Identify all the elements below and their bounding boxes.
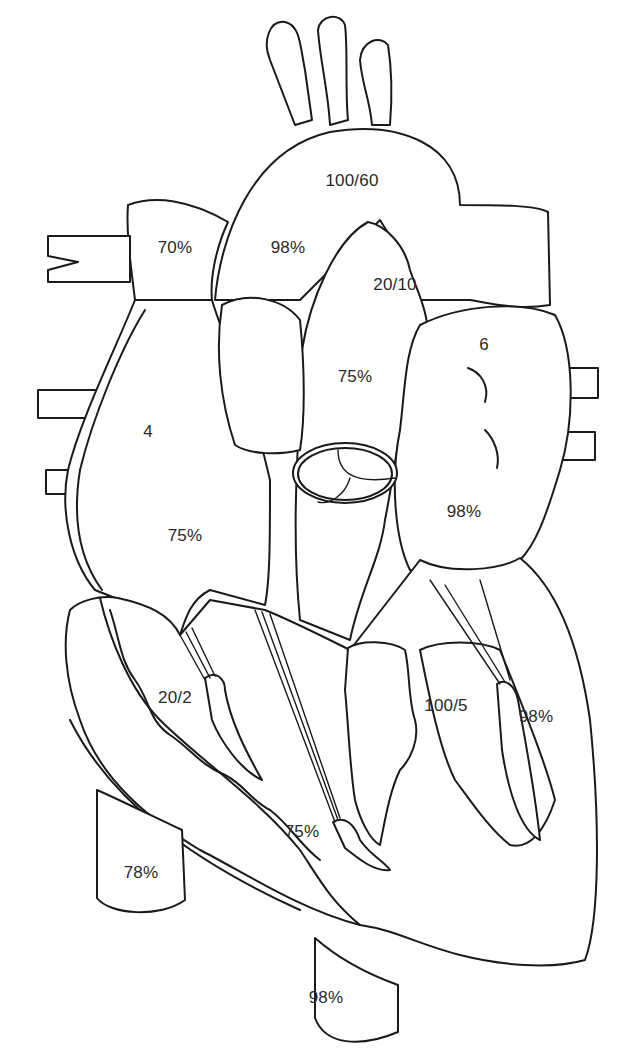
heart-diagram (0, 0, 621, 1056)
label-right-atrium-saturation: 75% (168, 526, 203, 546)
aortic-arch-branches (267, 17, 391, 125)
aortic-root (219, 298, 304, 454)
label-right-ventricle-pressure: 20/2 (158, 688, 192, 708)
label-right-atrium-pressure: 4 (143, 422, 153, 442)
label-left-atrium-pressure: 6 (479, 335, 489, 355)
label-ivc-saturation: 78% (124, 863, 159, 883)
label-pulmonary-artery-pressure: 20/10 (373, 275, 417, 295)
label-svc-saturation: 70% (158, 238, 193, 258)
label-left-ventricle-saturation: 98% (519, 707, 554, 727)
label-right-ventricle-saturation: 75% (285, 822, 320, 842)
pulmonary-valve (293, 443, 397, 503)
label-left-ventricle-pressure: 100/5 (424, 696, 468, 716)
label-pulmonary-artery-saturation: 75% (338, 367, 373, 387)
label-aorta-pressure: 100/60 (325, 171, 378, 191)
label-left-atrium-saturation: 98% (447, 502, 482, 522)
label-descending-aorta-saturation: 98% (309, 988, 344, 1008)
label-aorta-saturation: 98% (271, 238, 306, 258)
